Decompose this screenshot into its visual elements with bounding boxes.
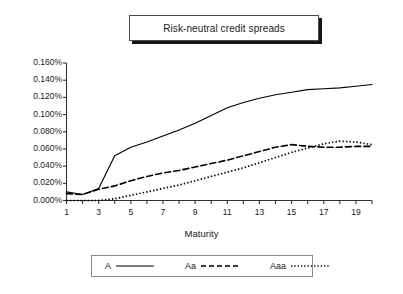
legend-label: Aa	[185, 261, 196, 271]
legend-label: A	[105, 261, 111, 271]
x-tick-label: 9	[185, 207, 205, 217]
dotted-line-icon	[290, 261, 330, 271]
x-tick-label: 7	[153, 207, 173, 217]
x-tick-label: 11	[217, 207, 237, 217]
x-tick-label: 3	[89, 207, 109, 217]
x-tick-label: 1	[57, 207, 77, 217]
x-axis-tick-labels: 135791113151719	[0, 0, 403, 294]
x-tick-label: 13	[249, 207, 269, 217]
chart-figure: Risk-neutral credit spreads 0.000%0.020%…	[0, 0, 403, 294]
x-tick-label: 5	[121, 207, 141, 217]
chart-legend: AAaAaa	[91, 255, 313, 277]
solid-line-icon	[115, 261, 155, 271]
legend-item-aa[interactable]: Aa	[185, 256, 240, 276]
legend-label: Aaa	[270, 261, 286, 271]
x-tick-label: 19	[346, 207, 366, 217]
x-tick-label: 17	[314, 207, 334, 217]
legend-item-aaa[interactable]: Aaa	[270, 256, 330, 276]
x-tick-label: 15	[282, 207, 302, 217]
dashed-line-icon	[200, 261, 240, 271]
x-axis-title: Maturity	[0, 228, 403, 239]
legend-item-a[interactable]: A	[105, 256, 155, 276]
